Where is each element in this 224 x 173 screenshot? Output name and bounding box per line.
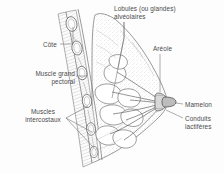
label-areole: Aréole bbox=[153, 45, 172, 53]
label-conduits-line2: lactifères bbox=[185, 123, 212, 131]
label-pectoral-line2: pectoral bbox=[13, 78, 75, 86]
label-mamelon: Mamelon bbox=[185, 101, 212, 109]
breast-anatomy-diagram bbox=[0, 0, 224, 173]
label-intercostaux-line2: intercostaux bbox=[8, 116, 78, 124]
label-lobules-line2: alvéolaires bbox=[114, 13, 176, 21]
label-mamelon-text: Mamelon bbox=[185, 101, 212, 109]
label-conduits-lactiferes: Conduits lactifères bbox=[185, 115, 212, 130]
leader-line-mamelon bbox=[176, 103, 183, 104]
label-muscle-grand-pectoral: Muscle grand pectoral bbox=[13, 70, 75, 85]
anatomy-figure-page: Lobules (ou glandes) alvéolaires Côte Ar… bbox=[0, 0, 224, 173]
label-pectoral-line1: Muscle grand bbox=[13, 70, 75, 78]
label-areole-text: Aréole bbox=[153, 45, 172, 53]
label-conduits-line1: Conduits bbox=[185, 115, 212, 123]
label-intercostaux-line1: Muscles bbox=[8, 108, 78, 116]
leader-line-conduits bbox=[166, 110, 183, 118]
label-cote: Côte bbox=[43, 41, 57, 49]
label-cote-text: Côte bbox=[43, 41, 57, 49]
label-lobules-line1: Lobules (ou glandes) bbox=[114, 5, 176, 13]
label-lobules-alveolaires: Lobules (ou glandes) alvéolaires bbox=[114, 5, 176, 20]
label-muscles-intercostaux: Muscles intercostaux bbox=[8, 108, 78, 123]
